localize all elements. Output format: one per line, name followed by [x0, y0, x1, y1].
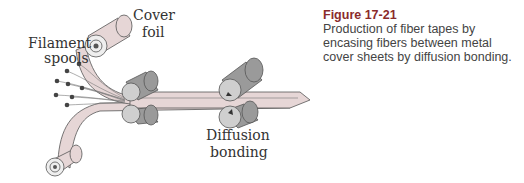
label-diffusion: Diffusion — [206, 127, 270, 143]
label-foil: foil — [142, 24, 165, 40]
diffusion-bonding-diagram: Cover foil Filament spools Diffusion bon… — [0, 0, 320, 183]
label-spools: spools — [44, 50, 89, 66]
label-filament: Filament — [28, 35, 92, 51]
label-cover: Cover — [133, 7, 175, 23]
figure-caption-text: Production of fiber tapes by encasing fi… — [323, 22, 523, 64]
figure-label: Figure 17-21 — [323, 8, 523, 22]
upper-cover-foil — [76, 15, 300, 104]
figure-caption: Figure 17-21 Production of fiber tapes b… — [323, 8, 523, 64]
filament-spool-dots — [54, 62, 85, 108]
label-bonding: bonding — [210, 144, 268, 160]
